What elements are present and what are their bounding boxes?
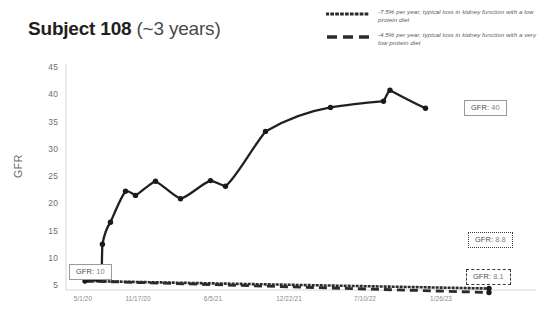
y-tick-35: 35 — [36, 117, 58, 127]
x-tick-1: 5/1/20 — [53, 295, 113, 302]
x-tick-3: 6/5/21 — [183, 295, 243, 302]
reference-endpoint-very-low-protein — [486, 290, 491, 295]
callout-gfr-low-protein: GFR: 8.8 — [468, 232, 513, 248]
y-tick-45: 45 — [36, 62, 58, 72]
callout-gfr-very-low-protein-key: GFR: — [473, 272, 491, 281]
callout-gfr-low-protein-value: 8.8 — [495, 235, 506, 244]
callout-gfr-low-protein-key: GFR: — [475, 235, 493, 244]
y-tick-25: 25 — [36, 171, 58, 181]
callout-gfr-very-low-protein: GFR: 8.1 — [466, 269, 511, 285]
gfr-data-line — [85, 90, 426, 281]
y-tick-40: 40 — [36, 89, 58, 99]
y-tick-5: 5 — [36, 280, 58, 290]
callout-gfr-end-key: GFR: — [471, 103, 489, 112]
data-point — [153, 179, 158, 184]
data-point — [381, 99, 386, 104]
gfr-data-markers — [82, 88, 428, 284]
y-tick-15: 15 — [36, 226, 58, 236]
x-tick-5: 7/10/22 — [335, 295, 395, 302]
y-tick-30: 30 — [36, 144, 58, 154]
y-tick-10: 10 — [36, 253, 58, 263]
x-tick-4: 12/22/21 — [259, 295, 319, 302]
data-point — [387, 88, 392, 93]
y-tick-20: 20 — [36, 198, 58, 208]
callout-gfr-start-key: GFR: — [76, 267, 94, 276]
chart-plot-area: GFR 45 40 35 30 25 20 15 10 5 5/1/20 11/… — [0, 0, 541, 312]
y-axis-title: GFR — [12, 146, 24, 186]
data-point — [133, 193, 138, 198]
data-point — [100, 242, 105, 247]
data-point — [208, 178, 213, 183]
data-point — [178, 196, 183, 201]
callout-gfr-very-low-protein-value: 8.1 — [493, 272, 504, 281]
data-point — [328, 105, 333, 110]
x-tick-2: 11/17/20 — [108, 295, 168, 302]
callout-gfr-start: GFR: 10 — [69, 264, 112, 280]
data-point — [263, 129, 268, 134]
data-point — [223, 184, 228, 189]
data-point — [108, 220, 113, 225]
data-point — [123, 189, 128, 194]
callout-gfr-end: GFR: 40 — [464, 100, 507, 116]
callout-gfr-end-value: 40 — [491, 103, 499, 112]
callout-gfr-start-value: 10 — [96, 267, 104, 276]
x-tick-6: 1/26/23 — [411, 295, 471, 302]
data-point — [423, 106, 428, 111]
